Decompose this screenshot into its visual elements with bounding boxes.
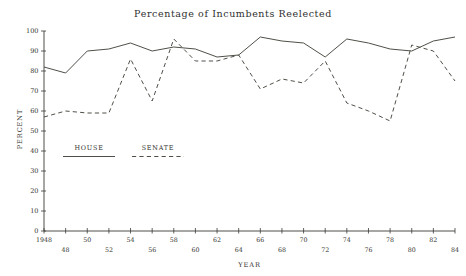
- x-tick-label: 1948: [36, 236, 52, 243]
- legend-label-house: HOUSE: [74, 144, 103, 152]
- x-tick-label: 64: [235, 246, 243, 253]
- y-tick-label: 0: [34, 227, 38, 235]
- legend-label-senate: SENATE: [142, 144, 175, 152]
- x-tick-label: 60: [191, 246, 199, 253]
- x-tick-label: 82: [429, 236, 437, 243]
- y-tick-label: 90: [30, 47, 38, 55]
- y-tick-label: 40: [30, 147, 38, 155]
- x-tick-label: 54: [127, 236, 135, 243]
- x-tick-label: 56: [148, 246, 156, 253]
- series-line-house: [44, 37, 455, 73]
- x-tick-label: 50: [83, 236, 91, 243]
- x-tick-label: 80: [408, 246, 416, 253]
- x-tick-label: 48: [62, 246, 70, 253]
- data-series-group: [44, 37, 455, 121]
- x-tick-label: 76: [364, 246, 372, 253]
- x-tick-label: 84: [451, 246, 459, 253]
- y-tick-label: 80: [30, 67, 38, 75]
- x-tick-label: 70: [300, 236, 308, 243]
- chart-plot-area: 0102030405060708090100 19484850525456586…: [0, 0, 466, 276]
- x-tick-label: 72: [321, 246, 329, 253]
- chart-legend: HOUSESENATE: [63, 144, 184, 157]
- x-tick-label: 58: [170, 236, 178, 243]
- y-tick-label: 50: [30, 127, 38, 135]
- y-axis-title: PERCENT: [16, 109, 24, 150]
- x-axis: 1948485052545658606264666870727476788082…: [36, 228, 459, 253]
- x-tick-label: 68: [278, 246, 286, 253]
- y-tick-label: 20: [30, 187, 38, 195]
- y-tick-label: 60: [30, 107, 38, 115]
- x-tick-label: 66: [256, 236, 264, 243]
- x-tick-label: 78: [386, 236, 394, 243]
- x-tick-label: 74: [343, 236, 351, 243]
- series-line-senate: [44, 39, 455, 121]
- y-tick-label: 30: [30, 167, 38, 175]
- x-tick-label: 52: [105, 246, 113, 253]
- y-tick-label: 70: [30, 87, 38, 95]
- y-tick-label: 100: [26, 27, 38, 35]
- chart-container: Percentage of Incumbents Reelected 01020…: [0, 0, 466, 276]
- x-axis-title: YEAR: [237, 261, 261, 269]
- y-tick-label: 10: [30, 207, 38, 215]
- y-axis: 0102030405060708090100: [26, 27, 46, 235]
- x-tick-label: 62: [213, 236, 221, 243]
- axis-titles: YEARPERCENT: [16, 109, 261, 269]
